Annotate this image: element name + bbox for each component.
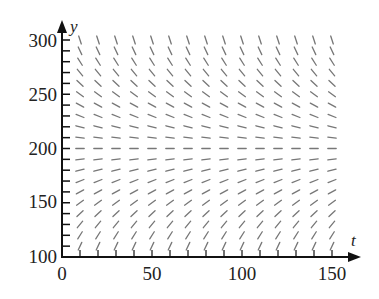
slope-segment (148, 169, 156, 171)
slope-segment (149, 200, 156, 205)
slope-segment (130, 180, 138, 183)
slope-segment (94, 137, 102, 138)
slope-segment (150, 232, 155, 239)
slope-segment (329, 200, 336, 205)
slope-segment (238, 180, 246, 183)
slope-segment (166, 126, 174, 128)
slope-segment (148, 114, 156, 117)
slope-segment (132, 47, 136, 55)
slope-segment (204, 58, 209, 65)
slope-segment (169, 36, 172, 44)
slope-segment (202, 114, 210, 117)
slope-segment (148, 190, 155, 194)
x-tick-label-50: 50 (143, 263, 162, 284)
slope-segment (329, 69, 334, 75)
slope-segment (184, 190, 191, 194)
slope-segment (294, 47, 298, 55)
slope-segment (221, 221, 226, 227)
slope-segment (257, 69, 262, 75)
slope-segment (168, 58, 173, 65)
slope-segment (77, 221, 82, 227)
slope-segment (76, 169, 84, 171)
slope-segment (328, 169, 336, 171)
slope-segment (112, 103, 119, 107)
slope-segment (275, 200, 282, 205)
slope-segment (113, 200, 120, 205)
slope-segment (95, 200, 102, 205)
slope-segment (148, 126, 156, 128)
slope-segment (79, 36, 82, 44)
slope-segment (203, 81, 209, 87)
slope-segment (258, 232, 263, 239)
slope-segment (166, 137, 174, 138)
slope-segment (76, 137, 84, 138)
slope-segment (239, 69, 244, 75)
slope-segment (94, 103, 101, 107)
slope-segment (94, 159, 102, 160)
slope-segment (184, 126, 192, 128)
slope-segment (131, 221, 136, 227)
x-ticks (80, 250, 332, 257)
slope-segment (274, 126, 282, 128)
slope-segment (167, 69, 172, 75)
slope-segment (330, 232, 335, 239)
slope-segment (221, 200, 228, 205)
slope-segment (133, 36, 136, 44)
slope-segment (274, 180, 282, 183)
x-tick-label-150: 150 (318, 263, 347, 284)
slope-segment (76, 126, 84, 128)
slope-segment (166, 159, 174, 160)
slope-segment (310, 114, 318, 117)
slope-segment (222, 58, 227, 65)
slope-segment (239, 200, 246, 205)
slope-segment (167, 200, 174, 205)
slope-segment (203, 69, 208, 75)
slope-segment (184, 137, 192, 138)
x-axis-label: t (351, 231, 357, 250)
slope-segment (240, 47, 244, 55)
slope-segment (97, 36, 100, 44)
slope-segment (274, 190, 281, 194)
slope-segment (312, 232, 317, 239)
slope-segment (130, 103, 137, 107)
slope-segment (221, 69, 226, 75)
slope-segment (274, 103, 281, 107)
slope-segment (293, 69, 298, 75)
slope-segment (167, 211, 173, 217)
slope-segment (113, 221, 118, 227)
slope-segment (148, 159, 156, 160)
slope-segment (131, 81, 137, 87)
slope-segment (220, 126, 228, 128)
slope-segment (202, 137, 210, 138)
slope-segment (220, 159, 228, 160)
slope-segment (310, 137, 318, 138)
slope-segment (131, 69, 136, 75)
slope-segment (220, 103, 227, 107)
slope-segment (166, 180, 174, 183)
slope-segment (223, 36, 226, 44)
slope-segment (328, 114, 336, 117)
slope-segment (186, 242, 190, 250)
slope-segment (150, 58, 155, 65)
slope-segment (113, 92, 120, 97)
slope-segment (256, 159, 264, 160)
slope-segment (77, 211, 83, 217)
slope-segment (76, 103, 83, 107)
slope-segment (78, 232, 83, 239)
slope-segment (310, 159, 318, 160)
x-tick-label-0: 0 (57, 263, 67, 284)
slope-segment (184, 159, 192, 160)
slope-segment (96, 58, 101, 65)
slope-segment (257, 221, 262, 227)
slope-segment (276, 242, 280, 250)
slope-segment (238, 126, 246, 128)
slope-segment (130, 190, 137, 194)
slope-segment (310, 103, 317, 107)
slope-segment (275, 221, 280, 227)
slope-segment (186, 232, 191, 239)
slope-segment (77, 69, 82, 75)
y-tick-label-300: 300 (29, 30, 58, 51)
slope-segment (240, 232, 245, 239)
slope-segment (185, 211, 191, 217)
slope-segment (220, 114, 228, 117)
